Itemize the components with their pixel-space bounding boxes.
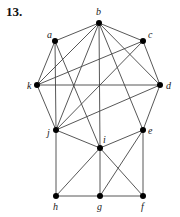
- vertex-g: [97, 193, 103, 199]
- edge-a-j: [55, 41, 56, 130]
- vertex-label-e: e: [148, 125, 153, 136]
- vertex-label-c: c: [148, 29, 153, 40]
- vertex-label-g: g: [97, 201, 102, 212]
- vertex-d: [157, 82, 163, 88]
- vertex-f: [140, 193, 146, 199]
- edge-i-f: [100, 148, 143, 196]
- edges-layer: [37, 23, 160, 196]
- vertex-label-b: b: [96, 6, 101, 17]
- vertex-label-k: k: [27, 80, 32, 91]
- vertex-label-i: i: [103, 134, 106, 145]
- edge-c-k: [37, 41, 143, 85]
- vertex-e: [140, 127, 146, 133]
- vertex-label-h: h: [53, 201, 58, 212]
- edge-e-g: [100, 130, 143, 196]
- vertex-a: [52, 38, 58, 44]
- edge-k-j: [37, 85, 56, 130]
- vertex-b: [96, 20, 102, 26]
- edge-b-e: [99, 23, 143, 130]
- vertex-label-a: a: [47, 29, 52, 40]
- vertex-h: [53, 193, 59, 199]
- vertex-i: [97, 145, 103, 151]
- vertex-k: [34, 82, 40, 88]
- vertex-label-j: j: [45, 127, 50, 138]
- vertex-c: [140, 38, 146, 44]
- edge-d-e: [143, 85, 160, 130]
- graph-diagram: abcdefghijk: [0, 0, 180, 217]
- edge-c-d: [143, 41, 160, 85]
- vertices-layer: [34, 20, 163, 199]
- edge-i-h: [56, 148, 100, 196]
- vertex-label-d: d: [166, 80, 172, 91]
- edge-i-e: [100, 130, 143, 148]
- vertex-j: [53, 127, 59, 133]
- vertex-label-f: f: [141, 201, 145, 212]
